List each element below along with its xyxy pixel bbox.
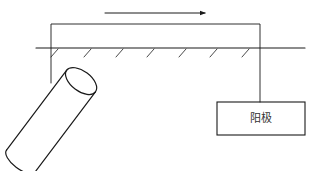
anode-label: 阳极 (250, 111, 272, 125)
anode-box: 阳极 (217, 102, 305, 135)
ground-hatching (51, 49, 249, 57)
ground-surface (36, 48, 305, 57)
cathodic-protection-diagram: 阳极 (0, 0, 313, 171)
pipe-end-ellipse (61, 62, 102, 100)
buried-pipe (2, 62, 102, 171)
connecting-wire (51, 24, 260, 102)
